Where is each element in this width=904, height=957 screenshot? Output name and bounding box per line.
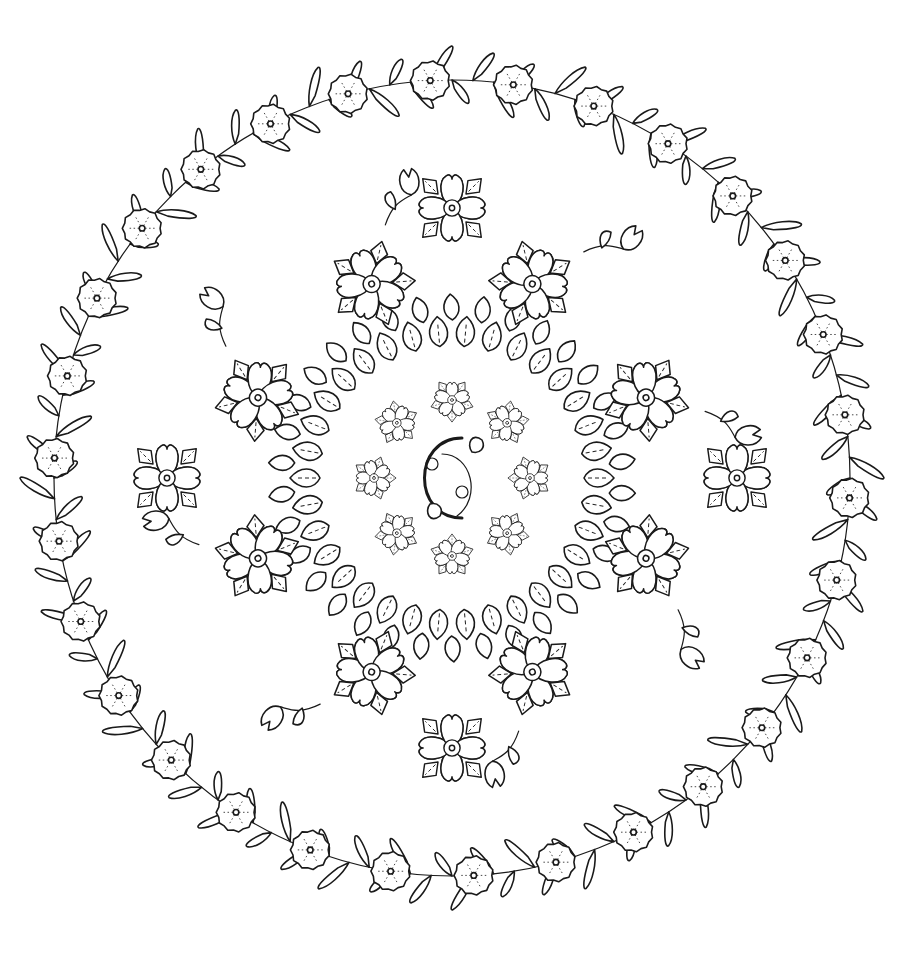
heart-petal-flowers — [132, 173, 772, 783]
center-swirl-motif — [425, 437, 484, 518]
mandala-svg — [0, 0, 904, 957]
mandala-artwork — [0, 0, 904, 957]
inner-flower-ring — [354, 380, 551, 577]
leaf-ring — [268, 293, 637, 662]
tulip-buds — [142, 168, 762, 788]
